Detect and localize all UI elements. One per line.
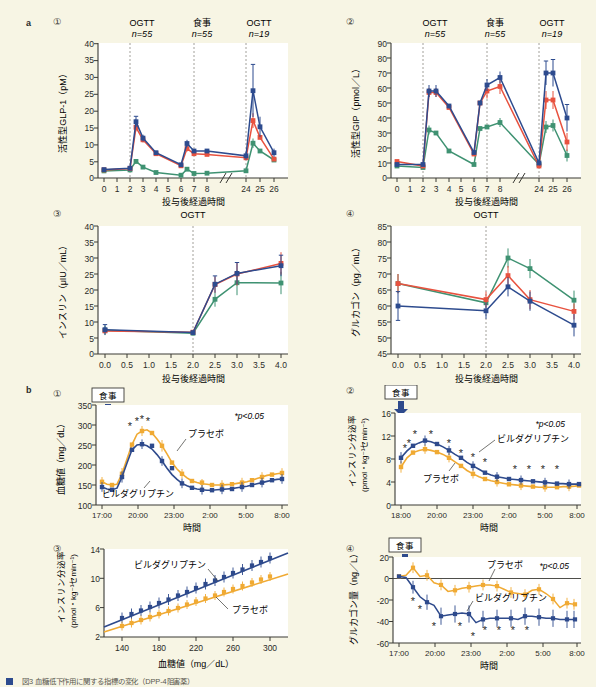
panel-b1-number: ① (53, 388, 62, 399)
svg-text:7: 7 (485, 184, 490, 194)
svg-text:3: 3 (141, 184, 146, 194)
svg-text:1.5: 1.5 (165, 360, 177, 370)
svg-text:-20: -20 (377, 596, 390, 606)
svg-text:*: * (418, 603, 423, 615)
svg-text:25: 25 (85, 89, 95, 99)
a2-y-ticklabels: 90 80 70 60 50 40 30 20 10 0 (378, 39, 388, 184)
b4-y-ticklabels: 20 0 -20 -40 -60 (377, 553, 390, 649)
a4-y-axis-label: グルカゴン（pg／mL） (350, 243, 361, 338)
svg-text:2: 2 (95, 632, 100, 642)
b2-label-placebo: プラセボ (423, 474, 459, 484)
a3-x-axis-label: 投与後経過時間 (162, 373, 225, 384)
svg-text:150: 150 (78, 481, 92, 491)
panel-a3: OGTT 40 35 30 25 20 15 10 5 0 0.00.5 1.0… (50, 200, 300, 390)
svg-text:10: 10 (85, 140, 95, 150)
svg-text:40: 40 (85, 39, 95, 49)
panel-group-b-label: b (26, 385, 32, 395)
a1-ann2-title: 食事 (193, 17, 211, 28)
b4-x-ticks (399, 643, 577, 647)
svg-text:10: 10 (378, 159, 388, 169)
svg-text:6: 6 (179, 184, 184, 194)
svg-text:*: * (483, 456, 488, 468)
panel-b2-number: ② (346, 385, 355, 396)
a4-x-ticklabels: 0.00.5 1.01.5 2.02.5 3.03.5 4.0 (392, 360, 580, 370)
panel-b4: 食事 20 0 -20 -40 -60 17:0020:00 23:002:00… (343, 535, 593, 680)
svg-text:4: 4 (386, 478, 391, 488)
svg-text:1.0: 1.0 (436, 360, 448, 370)
panel-b3-number: ③ (53, 543, 62, 554)
svg-text:40: 40 (85, 222, 95, 232)
a4-y-ticklabels: 85 80 75 70 65 60 55 50 45 (378, 222, 388, 360)
svg-text:1: 1 (408, 184, 413, 194)
svg-text:2.5: 2.5 (209, 360, 221, 370)
svg-text:300: 300 (263, 643, 277, 653)
b3-x-ticklabels: 140180 220260 300 (115, 643, 277, 653)
svg-text:10: 10 (85, 318, 95, 328)
a1-ann3-n: n=19 (249, 29, 269, 39)
b2-meal-label: 食事 (392, 388, 410, 398)
svg-text:2:00: 2:00 (499, 649, 515, 658)
panel-b4-svg: 食事 20 0 -20 -40 -60 17:0020:00 23:002:00… (343, 535, 593, 680)
svg-text:*: * (541, 463, 546, 475)
svg-text:40: 40 (378, 114, 388, 124)
panel-b1: 食事 350 300 250 200 150 100 17:0020:00 23… (50, 385, 300, 535)
b1-label-vildagliptin: ビルダグリプチン (102, 488, 174, 499)
svg-text:*: * (525, 624, 530, 636)
svg-text:*: * (511, 624, 516, 636)
a3-y-ticklabels: 40 35 30 25 20 15 10 5 0 (85, 222, 95, 360)
b3-y-axis-label-line2: (pmol・kg⁻¹セmin⁻¹) (69, 554, 78, 628)
svg-text:90: 90 (378, 39, 388, 49)
panel-b4-number: ④ (346, 543, 355, 554)
b2-label-vildagliptin: ビルダグリプチン (497, 433, 569, 444)
svg-text:17:00: 17:00 (92, 511, 113, 520)
a1-annotations: OGTT n=55 食事 n=55 OGTT n=19 (130, 17, 272, 39)
svg-text:8: 8 (205, 184, 210, 194)
svg-text:1: 1 (115, 184, 120, 194)
panel-a4: OGTT 85 80 75 70 65 60 55 50 45 0.00.5 1… (343, 200, 593, 390)
b4-x-ticklabels: 17:0020:00 23:002:00 5:008:00 (389, 649, 585, 658)
svg-text:*: * (513, 463, 518, 475)
svg-text:80: 80 (378, 54, 388, 64)
svg-text:*: * (483, 624, 488, 636)
panel-group-a-label: a (26, 18, 31, 28)
b3-y-ticklabels: 14 10 6 2 (91, 545, 101, 643)
svg-text:0: 0 (89, 349, 94, 359)
panel-a2-number: ② (346, 16, 355, 27)
svg-text:65: 65 (378, 286, 388, 296)
svg-text:25: 25 (255, 184, 265, 194)
svg-text:220: 220 (189, 643, 203, 653)
b2-y-axis-label-line2: (pmol・kg⁻¹セmin⁻¹) (360, 418, 369, 492)
b2-x-axis-label: 時間 (480, 523, 498, 533)
panel-b3: 14 10 6 2 140180 220260 300 (50, 535, 300, 680)
svg-text:8: 8 (498, 184, 503, 194)
svg-text:200: 200 (78, 461, 92, 471)
svg-text:35: 35 (85, 55, 95, 65)
svg-text:24: 24 (534, 184, 544, 194)
figure-caption-text: 図3 血糖低下作用に関する指標の変化（DPP-4阻害薬） (22, 675, 194, 686)
svg-text:0.5: 0.5 (121, 360, 133, 370)
svg-text:*: * (407, 437, 412, 449)
svg-text:-60: -60 (377, 639, 390, 649)
svg-text:15: 15 (85, 302, 95, 312)
svg-text:3.0: 3.0 (231, 360, 243, 370)
svg-text:20: 20 (85, 286, 95, 296)
svg-text:*: * (146, 415, 151, 427)
svg-text:250: 250 (78, 441, 92, 451)
svg-text:140: 140 (115, 643, 129, 653)
a2-x-ticks (397, 178, 567, 182)
a3-x-ticks (105, 354, 281, 358)
a1-plot-bg (98, 43, 288, 178)
svg-text:20:00: 20:00 (425, 649, 446, 658)
svg-text:260: 260 (226, 643, 240, 653)
svg-text:20: 20 (380, 553, 390, 563)
svg-text:25: 25 (85, 270, 95, 280)
svg-text:180: 180 (152, 643, 166, 653)
svg-text:85: 85 (378, 222, 388, 232)
svg-text:23:00: 23:00 (164, 511, 185, 520)
svg-text:5: 5 (459, 184, 464, 194)
svg-text:18:00: 18:00 (391, 511, 412, 520)
svg-text:15: 15 (85, 123, 95, 133)
svg-text:60: 60 (378, 84, 388, 94)
svg-text:26: 26 (562, 184, 572, 194)
a1-y-ticks (94, 44, 98, 178)
